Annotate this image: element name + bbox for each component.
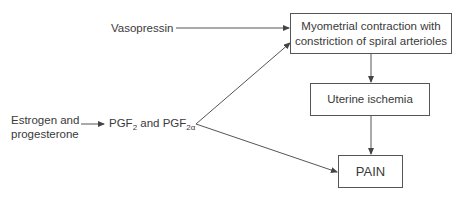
myometrial-line-1: Myometrial contraction with xyxy=(295,19,447,34)
estrogen-line-1: Estrogen and xyxy=(11,113,79,127)
vasopressin-label: Vasopressin xyxy=(111,21,173,35)
pgf-sub-2: 2α xyxy=(186,123,195,132)
pgf-main: PGF xyxy=(109,117,133,129)
arrow-pgf-to-myometrial xyxy=(196,43,290,124)
estrogen-line-2: progesterone xyxy=(11,127,79,141)
myometrial-line-2: constriction of spiral arterioles xyxy=(295,34,447,49)
myometrial-contraction-box: Myometrial contraction with constriction… xyxy=(290,13,452,54)
pgf-label: PGF2 and PGF2α xyxy=(109,116,195,130)
uterine-ischemia-box: Uterine ischemia xyxy=(310,83,430,116)
arrow-pgf-to-pain xyxy=(196,124,337,172)
pain-text: PAIN xyxy=(356,164,385,179)
uterine-ischemia-text: Uterine ischemia xyxy=(327,92,413,107)
pain-box: PAIN xyxy=(338,155,403,188)
estrogen-progesterone-label: Estrogen and progesterone xyxy=(11,113,79,141)
pgf-and: and PGF xyxy=(137,117,186,129)
